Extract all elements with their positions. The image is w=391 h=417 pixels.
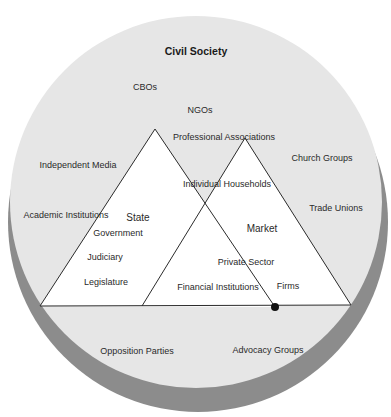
- label-legislature: Legislature: [84, 278, 128, 287]
- label-trade-unions: Trade Unions: [309, 204, 363, 213]
- label-private-sector: Private Sector: [218, 258, 275, 267]
- label-market: Market: [247, 224, 278, 234]
- label-church-groups: Church Groups: [291, 154, 352, 163]
- label-ngos: NGOs: [187, 106, 212, 115]
- label-state: State: [126, 213, 149, 223]
- label-opposition-parties: Opposition Parties: [100, 347, 174, 356]
- label-firms: Firms: [277, 282, 300, 291]
- label-cbos: CBOs: [133, 83, 157, 92]
- label-individual-households: Individual Households: [183, 180, 271, 189]
- label-academic-institutions: Academic Institutions: [23, 211, 108, 220]
- label-government: Government: [93, 229, 143, 238]
- label-financial-institutions: Financial Institutions: [177, 283, 259, 292]
- intersection-node: [271, 303, 279, 311]
- civil-society-title: Civil Society: [165, 46, 227, 57]
- label-judiciary: Judiciary: [87, 253, 123, 262]
- label-advocacy-groups: Advocacy Groups: [232, 346, 303, 355]
- civil-society-diagram: Civil Society CBOs NGOs Professional Ass…: [0, 0, 391, 417]
- label-professional-associations: Professional Associations: [173, 133, 275, 142]
- label-independent-media: Independent Media: [39, 161, 116, 170]
